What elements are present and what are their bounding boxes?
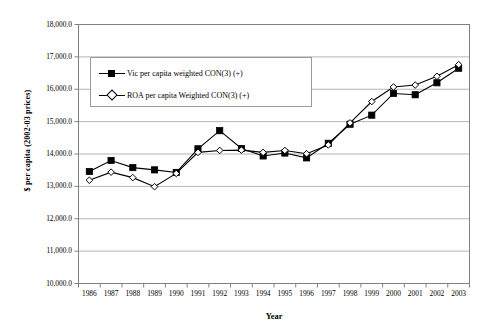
data-point-square-marker	[130, 164, 136, 170]
data-point-diamond-marker	[412, 82, 419, 89]
legend-item-label: ROA per capita Weighted CON(3) (+)	[125, 91, 249, 100]
chart-legend: Vic per capita weighted CON(3) (+) ROA p…	[90, 57, 312, 107]
data-point-diamond-marker	[434, 73, 441, 80]
legend-item-vic: Vic per capita weighted CON(3) (+)	[99, 66, 243, 80]
data-point-diamond-marker	[108, 169, 115, 176]
open-diamond-marker-icon	[99, 89, 125, 101]
data-point-diamond-marker	[130, 174, 137, 181]
data-point-square-marker	[369, 112, 375, 118]
chart-figure: $ per capita (2002-03 prices) 18,000.017…	[0, 0, 495, 332]
x-axis-tick-label: 2003	[439, 289, 479, 298]
legend-item-label: Vic per capita weighted CON(3) (+)	[125, 69, 243, 78]
x-axis-title: Year	[78, 312, 470, 321]
data-point-diamond-marker	[86, 177, 93, 184]
data-point-diamond-marker	[216, 147, 223, 154]
data-point-square-marker	[412, 92, 418, 98]
x-axis-tick-marks	[79, 284, 470, 288]
data-point-square-marker	[217, 128, 223, 134]
data-point-square-marker	[390, 90, 396, 96]
plot-area	[0, 0, 495, 332]
data-point-square-marker	[434, 80, 440, 86]
data-point-square-marker	[86, 168, 92, 174]
data-point-square-marker	[151, 167, 157, 173]
legend-item-roa: ROA per capita Weighted CON(3) (+)	[99, 88, 249, 102]
data-point-square-marker	[108, 157, 114, 163]
filled-square-marker-icon	[99, 67, 125, 79]
data-point-diamond-marker	[151, 183, 158, 190]
